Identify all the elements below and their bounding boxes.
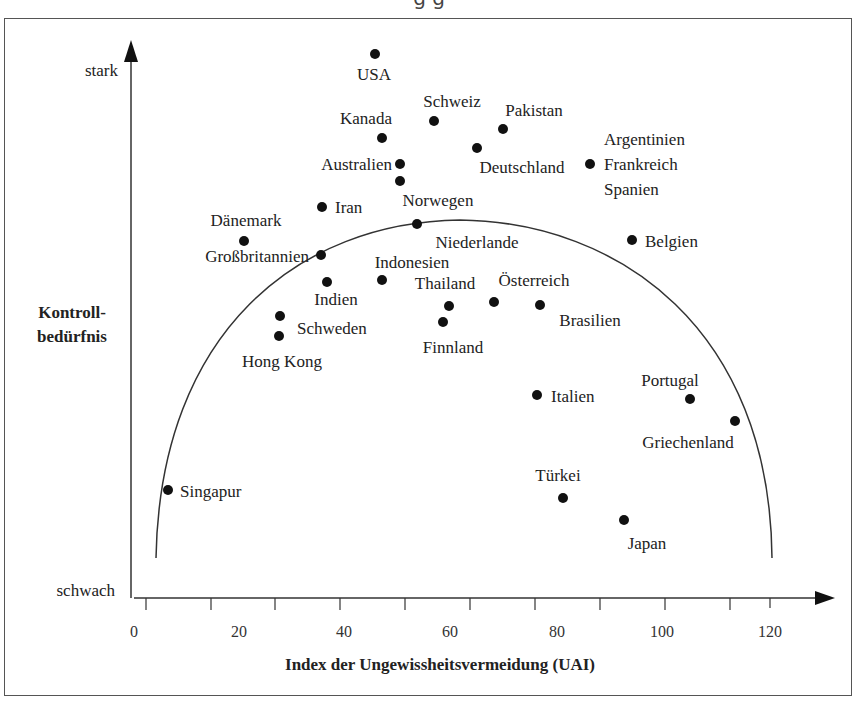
point-labels: USA Kanada Schweiz Pakistan Deutschland … <box>180 65 734 553</box>
tick-100: 100 <box>650 623 674 640</box>
label-grossbritannien: Großbritannien <box>205 247 309 266</box>
point-usa <box>370 49 380 59</box>
label-deutschland: Deutschland <box>480 158 565 177</box>
point-thailand <box>444 301 454 311</box>
point-norwegen <box>395 176 405 186</box>
point-italien <box>532 390 542 400</box>
label-tuerkei: Türkei <box>535 466 581 485</box>
label-indien: Indien <box>314 290 358 309</box>
y-level-schwach: schwach <box>56 581 115 600</box>
tick-60: 60 <box>442 623 458 640</box>
point-deutschland <box>472 143 482 153</box>
label-belgien: Belgien <box>645 232 698 251</box>
tick-120: 120 <box>758 623 782 640</box>
point-portugal <box>685 394 695 404</box>
point-tuerkei <box>558 493 568 503</box>
y-axis-title-line1: Kontroll- <box>38 303 106 322</box>
label-thailand: Thailand <box>415 274 476 293</box>
point-hongkong <box>274 331 284 341</box>
label-italien: Italien <box>551 387 595 406</box>
point-schweden <box>275 311 285 321</box>
label-portugal: Portugal <box>641 371 699 390</box>
label-oesterreich: Österreich <box>499 271 570 290</box>
label-niederlande: Niederlande <box>435 233 518 252</box>
label-frankreich: Frankreich <box>604 155 678 174</box>
label-indonesien: Indonesien <box>375 253 450 272</box>
point-belgien <box>627 235 637 245</box>
point-indien <box>322 277 332 287</box>
point-brasilien <box>535 300 545 310</box>
x-axis-arrow-icon <box>815 591 835 605</box>
point-iran <box>317 202 327 212</box>
point-argentinien-frankreich-spanien <box>585 159 595 169</box>
scatter-chart: 0 20 40 60 80 100 120 Index der Ungewiss… <box>0 0 858 702</box>
point-griechenland <box>730 416 740 426</box>
point-singapur <box>163 485 173 495</box>
label-iran: Iran <box>335 198 363 217</box>
point-indonesien <box>377 275 387 285</box>
y-level-stark: stark <box>85 61 119 80</box>
point-schweiz <box>429 116 439 126</box>
y-axis-arrow-icon <box>124 40 138 62</box>
point-daenemark <box>239 236 249 246</box>
point-grossbritannien <box>316 250 326 260</box>
label-pakistan: Pakistan <box>505 101 563 120</box>
y-axis-title-line2: bedürfnis <box>37 327 107 346</box>
tick-80: 80 <box>549 623 565 640</box>
x-tick-labels: 0 20 40 60 80 100 120 <box>130 623 782 640</box>
label-schweden: Schweden <box>297 319 367 338</box>
point-japan <box>619 515 629 525</box>
point-oesterreich <box>489 297 499 307</box>
point-kanada <box>377 133 387 143</box>
label-singapur: Singapur <box>180 482 242 501</box>
tick-0: 0 <box>130 623 138 640</box>
label-japan: Japan <box>628 534 667 553</box>
label-norwegen: Norwegen <box>403 191 474 210</box>
tick-40: 40 <box>336 623 352 640</box>
x-axis-title: Index der Ungewissheitsvermeidung (UAI) <box>285 655 595 674</box>
x-ticks <box>146 598 770 610</box>
label-argentinien: Argentinien <box>604 130 685 149</box>
point-australien <box>395 159 405 169</box>
label-australien: Australien <box>321 155 392 174</box>
point-niederlande <box>412 219 422 229</box>
label-spanien: Spanien <box>604 180 659 199</box>
label-brasilien: Brasilien <box>559 311 621 330</box>
label-usa: USA <box>357 65 392 84</box>
label-daenemark: Dänemark <box>211 211 282 230</box>
label-hongkong: Hong Kong <box>242 352 322 371</box>
label-kanada: Kanada <box>340 109 392 128</box>
point-finnland <box>438 317 448 327</box>
tick-20: 20 <box>231 623 247 640</box>
label-finnland: Finnland <box>423 338 484 357</box>
point-pakistan <box>498 124 508 134</box>
label-schweiz: Schweiz <box>423 92 481 111</box>
label-griechenland: Griechenland <box>642 433 734 452</box>
